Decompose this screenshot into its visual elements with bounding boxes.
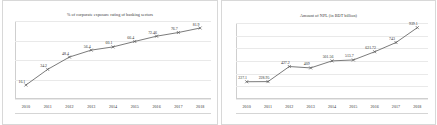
x-axis-tick-label: 2012 xyxy=(279,104,300,109)
data-point-label: 72.46 xyxy=(148,31,157,35)
x-axis-tick-label: 2017 xyxy=(385,104,406,109)
x-axis-rule-right xyxy=(236,113,428,114)
data-point-label: 56.4 xyxy=(84,45,91,49)
data-point-label: 81.9 xyxy=(193,23,200,27)
chart-panel-corporate-exposure-rating: % of corporate exposure rating of bankin… xyxy=(2,0,218,125)
x-axis-tick-label: 2018 xyxy=(189,104,211,109)
x-axis-tick-label: 2014 xyxy=(102,104,124,109)
x-axis-tick-label: 2017 xyxy=(167,104,189,109)
data-point-label: 34.2 xyxy=(40,64,47,68)
x-axis-tick-label: 2013 xyxy=(80,104,102,109)
data-point-label: 66.4 xyxy=(127,36,134,40)
data-point-marker xyxy=(395,41,398,44)
x-axis-tick-label: 2016 xyxy=(364,104,385,109)
chart-title-left: % of corporate exposure rating of bankin… xyxy=(3,12,217,17)
x-axis-tick-label: 2016 xyxy=(146,104,168,109)
data-point-label: 227.1 xyxy=(238,76,247,80)
data-point-label: 228.95 xyxy=(259,76,270,80)
chart-title-right: Amount of NPL (in BDT billion) xyxy=(222,13,435,18)
data-point-label: 621.72 xyxy=(365,46,376,50)
x-axis-tick-label: 2013 xyxy=(300,104,321,109)
plot-area-right: 227.1228.95427.2409501.56513.7621.727439… xyxy=(236,23,428,99)
data-point-marker xyxy=(24,84,27,87)
data-point-label: 501.56 xyxy=(323,55,334,59)
line-path xyxy=(26,28,200,85)
x-axis-tick-label: 2011 xyxy=(37,104,59,109)
data-point-marker xyxy=(46,68,49,71)
gridline xyxy=(15,99,211,100)
x-axis-tick-label: 2018 xyxy=(407,104,428,109)
chart-panel-amount-of-npl: Amount of NPL (in BDT billion) 227.1228.… xyxy=(221,0,436,125)
data-point-label: 76.7 xyxy=(171,27,178,31)
plot-area-left: 16.134.248.456.460.166.472.4676.781.9 xyxy=(15,21,211,99)
x-axis-tick-label: 2010 xyxy=(15,104,37,109)
data-point-label: 60.1 xyxy=(106,41,113,45)
charts-container: % of corporate exposure rating of bankin… xyxy=(0,0,437,125)
gridline xyxy=(236,99,428,100)
data-point-label: 16.1 xyxy=(18,80,25,84)
data-point-label: 743 xyxy=(389,37,395,41)
x-axis-tick-label: 2012 xyxy=(59,104,81,109)
data-point-label: 48.4 xyxy=(62,52,69,56)
x-axis-rule-left xyxy=(15,113,211,114)
data-point-label: 409 xyxy=(304,62,310,66)
x-axis-tick-label: 2011 xyxy=(257,104,278,109)
x-axis-tick-label: 2015 xyxy=(343,104,364,109)
series-line xyxy=(15,21,211,99)
x-axis-labels-left: 201020112012201320142015201620172018 xyxy=(15,104,211,109)
series-line xyxy=(236,23,428,99)
x-axis-tick-label: 2015 xyxy=(124,104,146,109)
data-point-label: 427.2 xyxy=(281,61,290,65)
x-axis-labels-right: 201020112012201320142015201620172018 xyxy=(236,104,428,109)
data-point-marker xyxy=(416,26,419,29)
data-point-label: 939.1 xyxy=(409,22,418,26)
x-axis-tick-label: 2014 xyxy=(321,104,342,109)
data-point-label: 513.7 xyxy=(345,54,354,58)
x-axis-tick-label: 2010 xyxy=(236,104,257,109)
